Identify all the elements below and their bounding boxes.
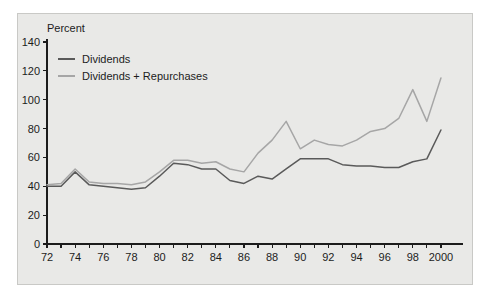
x-axis-tick-label: 2000: [421, 251, 461, 263]
axes-group: [43, 39, 463, 248]
series-line-dividends: [47, 130, 441, 189]
plot-area: Percent Dividends Dividends + Repurchase…: [0, 0, 486, 305]
y-axis-tick-label: 20: [8, 209, 40, 221]
series-line-dividends-repurchases: [47, 78, 441, 185]
y-axis-tick-label: 100: [8, 94, 40, 106]
series-group: [47, 78, 441, 189]
y-axis-tick-label: 0: [8, 238, 40, 250]
y-axis-tick-label: 40: [8, 180, 40, 192]
y-axis-tick-label: 60: [8, 151, 40, 163]
chart-figure: Percent Dividends Dividends + Repurchase…: [0, 0, 486, 305]
y-axis-tick-label: 120: [8, 65, 40, 77]
y-axis-tick-label: 80: [8, 123, 40, 135]
y-axis-tick-label: 140: [8, 36, 40, 48]
